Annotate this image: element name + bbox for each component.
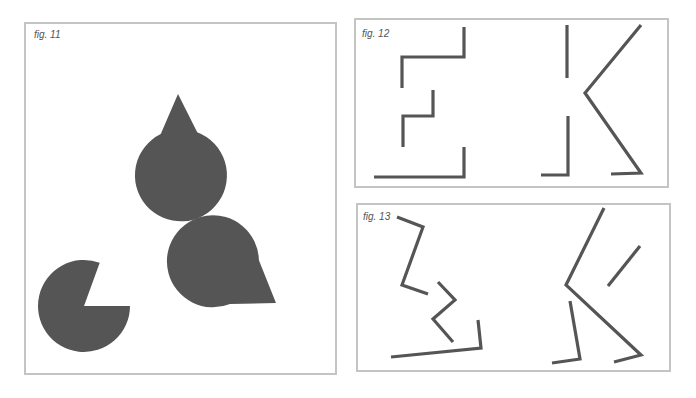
fig13-shapes xyxy=(391,208,641,363)
line-fragment xyxy=(374,147,464,177)
fig11-shapes xyxy=(38,94,276,352)
pacman-shape xyxy=(135,94,227,221)
line-fragment xyxy=(585,25,641,174)
line-fragment xyxy=(397,217,428,294)
line-fragment xyxy=(391,320,481,357)
fig12-shapes xyxy=(374,25,641,177)
line-fragment xyxy=(403,90,433,147)
illustration-canvas xyxy=(0,0,696,398)
line-fragment xyxy=(608,246,640,286)
pacman-shape xyxy=(38,260,130,352)
line-fragment xyxy=(433,282,455,342)
line-fragment xyxy=(552,301,580,363)
pacman-shape xyxy=(167,215,276,307)
line-fragment xyxy=(402,27,464,88)
line-fragment xyxy=(541,116,568,175)
